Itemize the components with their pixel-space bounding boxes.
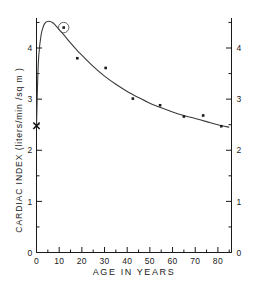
data-point [132, 97, 135, 100]
data-point [183, 115, 186, 118]
chart-figure: 010203040506070800011223344 AGE IN YEARS… [0, 0, 264, 281]
x-tick-label: 70 [190, 256, 200, 266]
tick-marks [37, 22, 232, 252]
cardiac-index-chart: 010203040506070800011223344 AGE IN YEARS… [0, 0, 264, 281]
x-tick-label: 80 [213, 256, 223, 266]
x-tick-label: 40 [122, 256, 132, 266]
y-tick-label-left: 4 [27, 43, 32, 53]
y-tick-label-right: 2 [237, 145, 242, 155]
data-point [202, 114, 205, 117]
data-point [220, 125, 223, 128]
y-tick-label-right: 3 [237, 94, 242, 104]
x-tick-label: 10 [54, 256, 64, 266]
data-point [62, 26, 65, 29]
x-tick-label: 0 [34, 256, 39, 266]
x-tick-label: 50 [145, 256, 155, 266]
y-tick-label-right: 1 [237, 197, 242, 207]
data-point [76, 57, 79, 60]
y-tick-label-right: 4 [237, 43, 242, 53]
y-tick-label-left: 3 [27, 94, 32, 104]
data-points [59, 22, 223, 127]
x-tick-label: 60 [168, 256, 178, 266]
y-tick-label-left: 2 [27, 145, 32, 155]
x-axis-title: AGE IN YEARS [93, 267, 176, 277]
data-point [104, 67, 107, 70]
fitted-curve [37, 21, 230, 127]
x-tick-label: 30 [99, 256, 109, 266]
y-tick-label-right: 0 [237, 248, 242, 258]
tick-labels: 010203040506070800011223344 [27, 43, 241, 265]
y-axis-title: CARDIAC INDEX (liters/min /sq m ) [14, 67, 24, 232]
y-tick-label-left: 1 [27, 197, 32, 207]
x-tick-label: 20 [77, 256, 87, 266]
data-point [159, 104, 162, 107]
axes-group [37, 18, 232, 253]
y-tick-label-left: 0 [27, 248, 32, 258]
